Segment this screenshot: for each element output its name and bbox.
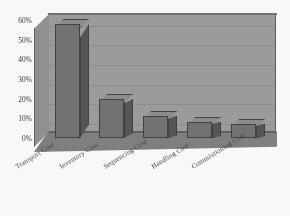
y-axis: 60% 50% 40% 30% 20% 10% 0% [0, 14, 32, 152]
bar-handling-cost [187, 122, 212, 138]
bar-front-face [187, 122, 212, 138]
bar-side-face [80, 24, 89, 138]
gridline [49, 26, 276, 27]
bar-front-face [55, 24, 80, 138]
y-tick-label: 20% [2, 94, 32, 103]
y-tick-label: 60% [2, 16, 32, 25]
bar-front-face [143, 116, 168, 138]
y-tick-label: 0% [2, 134, 32, 143]
y-tick-label: 10% [2, 114, 32, 123]
y-tick-label: 30% [2, 75, 32, 84]
bar-side-face [168, 116, 177, 138]
y-tick-label: 50% [2, 35, 32, 44]
bar-side-face [124, 99, 133, 138]
bar-inventory-cost [99, 99, 124, 138]
y-tick-label: 40% [2, 55, 32, 64]
bar-side-face [212, 122, 221, 138]
chart-top-edge [48, 13, 277, 15]
bar-sequencing-cost [143, 116, 168, 138]
bar-side-face [256, 124, 265, 138]
bar-transport-cost [55, 24, 80, 138]
x-axis: Transport Cost Inventory Cost Sequencing… [0, 150, 290, 216]
bar-front-face [99, 99, 124, 138]
bar-chart: 60% 50% 40% 30% 20% 10% 0% [0, 0, 290, 216]
chart-left-wall [34, 14, 49, 147]
